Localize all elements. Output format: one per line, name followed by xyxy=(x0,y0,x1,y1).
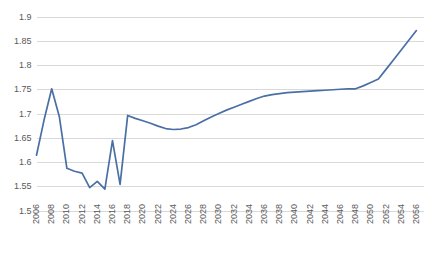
x-tick-label: 2016 xyxy=(107,204,117,224)
y-tick-label: 1.65 xyxy=(14,133,32,143)
y-tick-label: 1.7 xyxy=(19,109,32,119)
x-tick-label: 2040 xyxy=(289,204,299,224)
x-tick-label: 2018 xyxy=(122,204,132,224)
series-lines xyxy=(37,31,417,190)
x-tick-label: 2052 xyxy=(381,204,391,224)
x-tick-label: 2026 xyxy=(183,204,193,224)
y-tick-label: 1.5 xyxy=(19,206,32,216)
x-tick-label: 2044 xyxy=(320,204,330,224)
x-tick-label: 2046 xyxy=(335,204,345,224)
y-tick-label: 1.6 xyxy=(19,157,32,167)
y-tick-label: 1.75 xyxy=(14,84,32,94)
series-line xyxy=(37,31,417,190)
y-tick-label: 1.9 xyxy=(19,12,32,22)
x-tick-label: 2034 xyxy=(244,204,254,224)
x-tick-label: 2030 xyxy=(213,204,223,224)
y-tick-label: 1.8 xyxy=(19,60,32,70)
x-tick-label: 2050 xyxy=(365,204,375,224)
x-tick-label: 2022 xyxy=(153,204,163,224)
x-tick-label: 2036 xyxy=(259,204,269,224)
x-tick-label: 2048 xyxy=(350,204,360,224)
x-tick-label: 2010 xyxy=(61,204,71,224)
y-tick-label: 1.55 xyxy=(14,181,32,191)
x-tick-label: 2032 xyxy=(229,204,239,224)
x-tick-label: 2042 xyxy=(305,204,315,224)
x-tick-label: 2012 xyxy=(77,204,87,224)
x-tick-label: 2014 xyxy=(92,204,102,224)
x-tick-label: 2038 xyxy=(274,204,284,224)
x-tick-label: 2028 xyxy=(198,204,208,224)
x-tick-label: 2024 xyxy=(168,204,178,224)
x-tick-label: 2056 xyxy=(411,204,421,224)
line-chart: 1.91.851.81.751.71.651.61.551.5 20062008… xyxy=(0,0,434,262)
gridlines xyxy=(37,17,425,211)
y-tick-label: 1.85 xyxy=(14,36,32,46)
x-tick-label: 2020 xyxy=(137,204,147,224)
x-tick-label: 2006 xyxy=(31,204,41,224)
x-tick-label: 2008 xyxy=(46,204,56,224)
x-tick-label: 2054 xyxy=(396,204,406,224)
